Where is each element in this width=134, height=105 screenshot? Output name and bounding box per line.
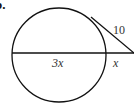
secant-tangent-diagram: b. 10 3x x <box>0 0 134 105</box>
circle <box>12 8 106 102</box>
chord-segment-label: 3x <box>51 56 64 70</box>
tangent-length-label: 10 <box>113 23 125 37</box>
problem-number: b. <box>0 0 5 12</box>
external-segment-label: x <box>112 56 119 70</box>
